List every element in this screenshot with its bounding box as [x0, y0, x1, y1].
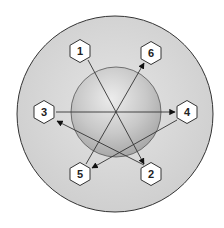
node-label: 4 [184, 106, 191, 118]
pattern-diagram: 123456 [0, 0, 224, 228]
node-label: 3 [41, 106, 47, 118]
node-label: 5 [77, 168, 83, 180]
node-label: 6 [148, 47, 154, 59]
node-label: 2 [148, 168, 154, 180]
node-label: 1 [77, 45, 83, 57]
